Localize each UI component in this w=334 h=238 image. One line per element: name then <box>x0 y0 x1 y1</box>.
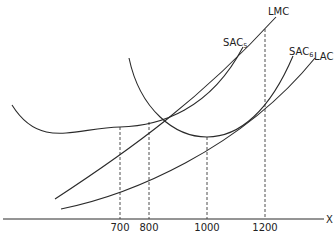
tick-700: 700 <box>110 222 129 233</box>
cost-curves-diagram: LMC SAC5 SAC6 LAC 700 800 1000 1200 X <box>0 0 334 238</box>
sac5-label: SAC5 <box>223 37 247 50</box>
lmc-label: LMC <box>268 6 289 17</box>
sac5-curve <box>12 47 243 133</box>
sac6-curve <box>129 56 293 137</box>
tick-1000: 1000 <box>194 222 219 233</box>
x-axis-label: X <box>326 214 333 225</box>
tick-800: 800 <box>139 222 158 233</box>
lac-label: LAC <box>314 51 333 62</box>
tick-1200: 1200 <box>252 222 277 233</box>
